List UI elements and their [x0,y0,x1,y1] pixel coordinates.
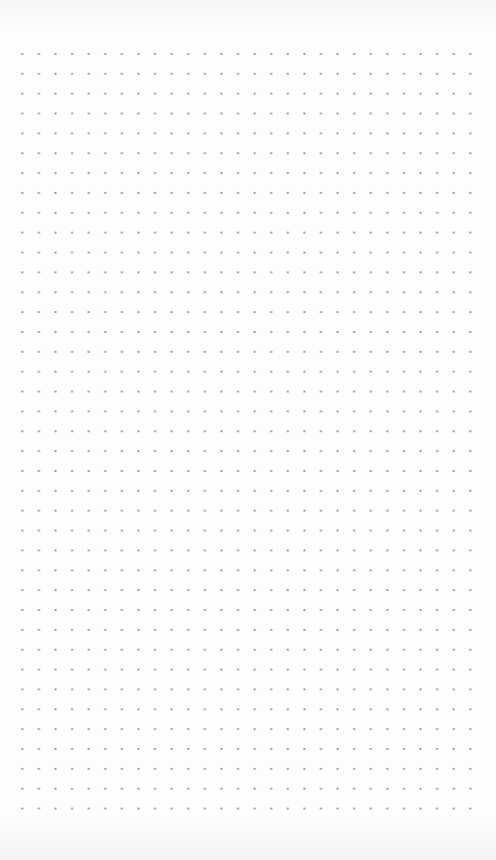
dot-grid-paper [0,0,496,860]
dot-grid [14,44,480,816]
